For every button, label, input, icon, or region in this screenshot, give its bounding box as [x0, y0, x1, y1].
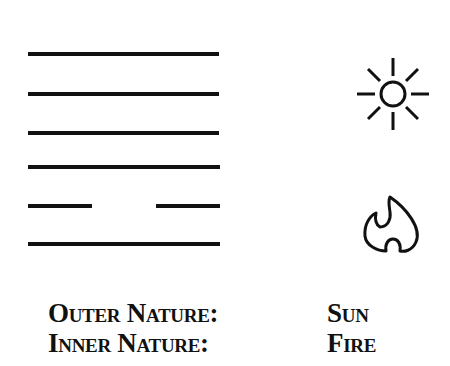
- outer-nature-label: Outer Nature:: [48, 298, 327, 328]
- hexagram-line-5-solid: [28, 92, 219, 96]
- inner-nature-label: Inner Nature:: [48, 328, 327, 358]
- outer-nature-row: Outer Nature:Sun: [48, 298, 369, 328]
- hexagram-line-1-solid: [28, 242, 220, 246]
- hexagram-line-2-broken-left: [28, 204, 92, 208]
- inner-nature-row: Inner Nature:Fire: [48, 328, 376, 358]
- sun-icon: [353, 54, 433, 134]
- outer-nature-value: Sun: [327, 298, 369, 328]
- inner-nature-value: Fire: [327, 328, 376, 358]
- hexagram-line-3-solid: [28, 165, 220, 169]
- fire-icon: [360, 194, 426, 254]
- hexagram-line-4-solid: [28, 131, 219, 135]
- hexagram-line-6-solid: [28, 52, 219, 56]
- hexagram-line-2-broken-right: [156, 204, 220, 208]
